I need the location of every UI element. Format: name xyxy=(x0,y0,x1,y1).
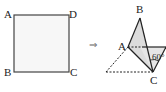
folded-figure: B A C 60° xyxy=(106,3,166,86)
label-c-left: C xyxy=(70,66,77,78)
square-abcd: A B C D xyxy=(4,8,77,78)
label-a-right: A xyxy=(118,40,126,52)
square-shape xyxy=(14,15,69,72)
folding-diagram: A B C D ⇒ B A C 60° xyxy=(0,0,166,92)
label-b-left: B xyxy=(4,66,11,78)
label-c-right: C xyxy=(150,74,157,86)
label-a-left: A xyxy=(4,8,12,20)
label-b-right: B xyxy=(136,3,143,15)
implies-arrow-icon: ⇒ xyxy=(89,39,97,50)
angle-label: 60° xyxy=(152,52,165,62)
label-d-left: D xyxy=(69,8,77,20)
